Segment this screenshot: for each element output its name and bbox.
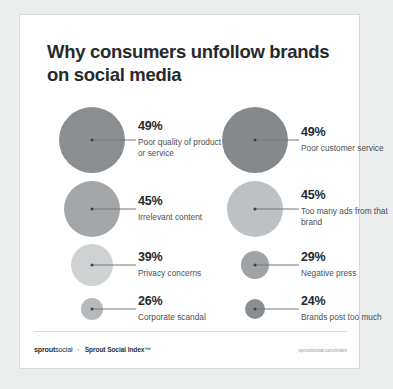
center-dot: [254, 208, 257, 211]
bubble-percent-value: 24%: [301, 295, 393, 309]
bubble-percent-value: 45%: [301, 189, 393, 203]
bubble-chart: 49%Poor quality of product or service49%…: [20, 15, 361, 370]
center-dot: [91, 139, 94, 142]
bubble-label-group: 45%Irrelevant content: [138, 195, 230, 223]
bubble-label-group: 29%Negative press: [301, 251, 393, 279]
leader-line: [92, 309, 136, 310]
leader-line: [255, 209, 299, 210]
bubble-category-label: Too many ads from that brand: [301, 206, 393, 228]
bubble-percent-value: 45%: [138, 195, 230, 209]
footer-index-label: Sprout Social Index™: [85, 346, 151, 353]
bubble-category-label: Brands post too much: [301, 312, 393, 323]
center-dot: [254, 264, 257, 267]
footer-url: sproutsocial.com/index: [298, 347, 347, 353]
leader-line: [92, 140, 136, 141]
bubble-label-group: 45%Too many ads from that brand: [301, 189, 393, 228]
bubble-category-label: Poor customer service: [301, 143, 393, 154]
bubble-percent-value: 26%: [138, 295, 230, 309]
bubble-category-label: Irrelevant content: [138, 212, 230, 223]
bubble-percent-value: 29%: [301, 251, 393, 265]
logo-social-text: social: [55, 345, 72, 354]
center-dot: [91, 264, 94, 267]
center-dot: [254, 308, 257, 311]
leader-line: [92, 265, 136, 266]
center-dot: [254, 139, 257, 142]
leader-line: [255, 309, 299, 310]
leader-line: [255, 265, 299, 266]
footer-divider: [34, 331, 347, 332]
bubble-category-label: Negative press: [301, 268, 393, 279]
bubble-label-group: 39%Privacy concerns: [138, 251, 230, 279]
bubble-category-label: Corporate scandal: [138, 312, 230, 323]
footer: sprout social · Sprout Social Index™ spr…: [34, 345, 347, 359]
leader-line: [255, 140, 299, 141]
footer-separator: ·: [77, 345, 79, 354]
center-dot: [91, 308, 94, 311]
infographic-card: Why consumers unfollow brands on social …: [19, 14, 360, 369]
bubble-category-label: Privacy concerns: [138, 268, 230, 279]
bubble-label-group: 26%Corporate scandal: [138, 295, 230, 323]
bubble-percent-value: 49%: [138, 120, 230, 134]
bubble-label-group: 49%Poor customer service: [301, 126, 393, 154]
bubble-category-label: Poor quality of product or service: [138, 137, 230, 159]
bubble-percent-value: 39%: [138, 251, 230, 265]
bubble-percent-value: 49%: [301, 126, 393, 140]
sprout-social-logo: sprout social · Sprout Social Index™: [34, 345, 151, 354]
leader-line: [92, 209, 136, 210]
bubble-label-group: 49%Poor quality of product or service: [138, 120, 230, 159]
logo-sprout-text: sprout: [34, 345, 55, 354]
bubble-label-group: 24%Brands post too much: [301, 295, 393, 323]
center-dot: [91, 208, 94, 211]
